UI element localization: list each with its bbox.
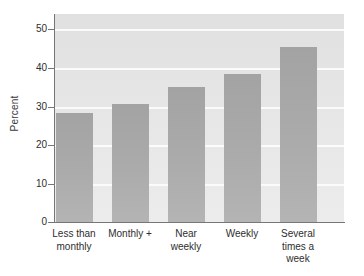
y-tick-label-30: 30: [21, 102, 47, 112]
y-tick-label-40: 40: [21, 63, 47, 73]
bar-chart-figure: Percent 0 10 20 30 40 50 Less thanmonthl…: [0, 0, 364, 276]
y-tick-mark-0: [48, 222, 54, 223]
bar-near-weekly: [168, 87, 205, 222]
bar-several-times-a-week: [280, 47, 317, 222]
gridline-50: [55, 29, 344, 31]
bar-less-than-monthly: [56, 113, 93, 222]
y-tick-mark-20: [48, 145, 54, 146]
y-tick-mark-30: [48, 107, 54, 108]
bar-monthly-plus: [112, 104, 149, 222]
y-tick-label-0: 0: [21, 217, 47, 227]
y-tick-label-10: 10: [21, 179, 47, 189]
y-tick-label-20: 20: [21, 140, 47, 150]
y-tick-mark-50: [48, 29, 54, 30]
y-tick-mark-10: [48, 184, 54, 185]
y-tick-mark-40: [48, 68, 54, 69]
y-tick-label-50: 50: [21, 24, 47, 34]
y-axis-line: [54, 14, 55, 223]
y-axis-title: Percent: [9, 79, 20, 149]
x-axis-line: [54, 222, 345, 223]
bar-weekly: [224, 74, 261, 222]
x-category-label-4: Severaltimes aweek: [261, 228, 335, 266]
